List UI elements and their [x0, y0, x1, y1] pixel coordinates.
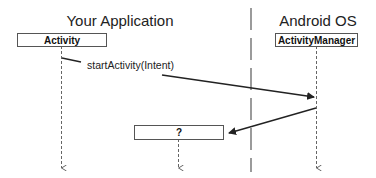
lane-title-app: Your Application — [66, 12, 173, 29]
start-activity-arrow-segment — [62, 58, 81, 62]
start-activity-arrow — [162, 75, 314, 97]
start-activity-label: startActivity(Intent) — [87, 59, 174, 71]
return-arrow — [229, 108, 316, 133]
activity-manager-box: ActivityManager — [275, 33, 358, 47]
unknown-box: ? — [134, 125, 224, 140]
lane-title-os: Android OS — [279, 12, 357, 29]
activity-box: Activity — [17, 33, 107, 47]
